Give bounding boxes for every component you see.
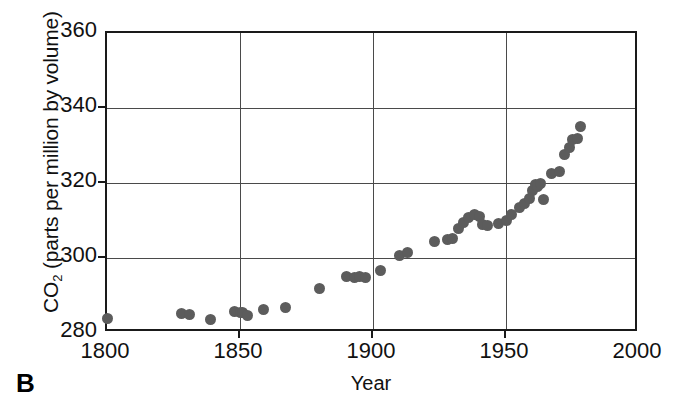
- x-axis-title: Year: [105, 372, 637, 395]
- data-point: [535, 178, 546, 189]
- x-tick-label: 1950: [449, 340, 559, 362]
- x-tick-label: 1900: [316, 340, 426, 362]
- y-tick-label: 320: [0, 169, 97, 191]
- gridline-horizontal: [107, 183, 635, 184]
- y-tick-label: 360: [0, 19, 97, 41]
- x-tick-label: 2000: [582, 340, 684, 362]
- panel-label: B: [16, 368, 35, 399]
- x-tick-label: 1850: [183, 340, 293, 362]
- data-point: [429, 236, 440, 247]
- plot-area: [105, 31, 637, 331]
- data-point: [242, 310, 253, 321]
- gridline-horizontal: [107, 108, 635, 109]
- data-point: [554, 166, 565, 177]
- x-tick-mark: [371, 331, 373, 338]
- x-tick-mark: [238, 331, 240, 338]
- y-axis-title: CO2 (parts per million by volume): [39, 0, 63, 327]
- data-point: [360, 272, 371, 283]
- gridline-vertical: [506, 33, 507, 329]
- gridline-vertical: [240, 33, 241, 329]
- data-point: [258, 304, 269, 315]
- y-axis-title-base: CO: [39, 282, 62, 313]
- y-axis-title-subscript: 2: [50, 275, 65, 282]
- x-tick-label: 1800: [50, 340, 160, 362]
- y-tick-mark: [98, 106, 105, 108]
- co2-scatter-figure: CO2 (parts per million by volume) Year B…: [0, 0, 684, 417]
- data-point: [375, 265, 386, 276]
- data-point: [575, 121, 586, 132]
- data-point: [482, 220, 493, 231]
- data-point: [447, 233, 458, 244]
- y-tick-mark: [98, 181, 105, 183]
- gridline-vertical: [373, 33, 374, 329]
- y-tick-label: 300: [0, 244, 97, 266]
- data-point: [538, 194, 549, 205]
- data-point: [572, 133, 583, 144]
- y-axis-title-rest: (parts per million by volume): [39, 11, 62, 275]
- x-tick-mark: [504, 331, 506, 338]
- data-point: [314, 283, 325, 294]
- data-point: [280, 302, 291, 313]
- data-point: [184, 309, 195, 320]
- data-point: [205, 314, 216, 325]
- data-point: [402, 247, 413, 258]
- gridline-horizontal: [107, 258, 635, 259]
- data-point: [102, 313, 113, 324]
- y-tick-label: 340: [0, 94, 97, 116]
- y-tick-mark: [98, 256, 105, 258]
